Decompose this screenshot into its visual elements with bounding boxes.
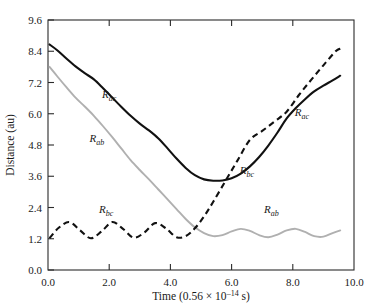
x-tick-label-10.0: 10.0 (344, 276, 364, 288)
y-tick-label-0.0: 0.0 (28, 264, 42, 276)
y-tick-label-8.4: 8.4 (28, 45, 42, 57)
label-rbc-right: Rbc (239, 164, 255, 179)
x-tick-label-6.0: 6.0 (225, 276, 239, 288)
y-tick-label-9.6: 9.6 (28, 14, 42, 26)
y-tick-label-2.4: 2.4 (28, 202, 42, 214)
y-tick-label-1.2: 1.2 (28, 233, 42, 245)
x-axis-title-prefix: Time (0.56 × 10 (152, 290, 227, 303)
x-axis-title-exponent: –14 (226, 289, 239, 298)
x-axis-ticks (109, 20, 293, 270)
y-axis-ticks (48, 20, 54, 270)
y-axis-title: Distance (au) (4, 114, 17, 176)
label-rac-right: Rac (294, 106, 310, 121)
x-tick-label-2.0: 2.0 (102, 276, 116, 288)
x-tick-label-0.0: 0.0 (41, 276, 55, 288)
x-tick-label-4.0: 4.0 (164, 276, 178, 288)
x-axis-title: Time (0.56 × 10–14 s) (152, 289, 250, 303)
label-rbc-left: Rbc (98, 203, 114, 218)
series-r-ab (50, 67, 341, 237)
y-tick-label-6.0: 6.0 (28, 108, 42, 120)
y-tick-label-4.8: 4.8 (28, 139, 42, 151)
x-tick-label-8.0: 8.0 (286, 276, 300, 288)
x-axis-tick-labels: 0.02.04.06.08.010.0 (41, 276, 364, 288)
x-axis-title-suffix: s) (239, 290, 250, 303)
label-rac-left: Rac (101, 88, 117, 103)
label-rab-right: Rab (263, 203, 279, 218)
y-axis-tick-labels: 0.01.22.43.64.86.07.28.49.6 (28, 14, 42, 276)
chart-figure: 0.01.22.43.64.86.07.28.49.6 0.02.04.06.0… (0, 0, 379, 307)
distance-vs-time-plot: 0.01.22.43.64.86.07.28.49.6 0.02.04.06.0… (0, 0, 379, 307)
label-rab-left: Rab (89, 132, 105, 147)
y-tick-label-3.6: 3.6 (28, 170, 42, 182)
y-tick-label-7.2: 7.2 (28, 77, 42, 89)
